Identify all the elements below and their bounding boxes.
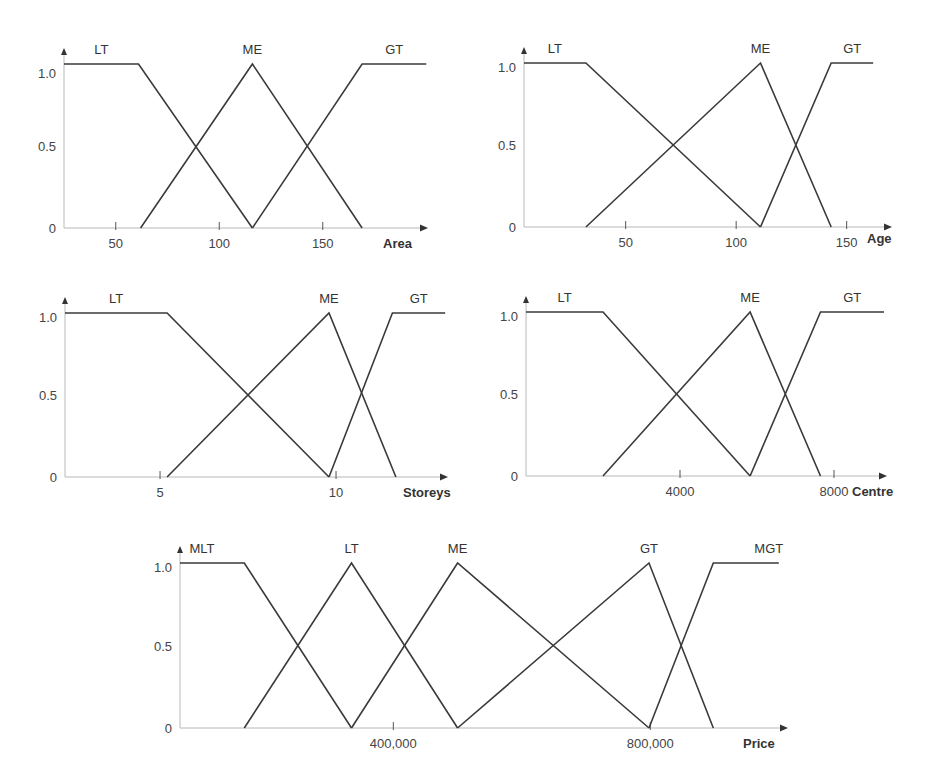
- chart-svg: 00.51.0400,000800,000PriceMLTLTMEGTMGT: [0, 0, 926, 781]
- y-tick-label: 1.0: [154, 560, 172, 575]
- membership-curve-lt: [244, 563, 457, 728]
- y-tick-label: 0: [165, 721, 172, 736]
- set-label-gt: GT: [640, 541, 658, 556]
- set-label-lt: LT: [344, 541, 358, 556]
- membership-curve-gt: [458, 563, 714, 728]
- x-tick-label: 400,000: [370, 736, 417, 751]
- y-tick-label: 0.5: [154, 639, 172, 654]
- membership-curve-me: [352, 563, 650, 728]
- y-axis-arrow-icon: [177, 546, 183, 553]
- membership-curve-mgt: [649, 563, 779, 728]
- membership-curve-mlt: [180, 563, 352, 728]
- set-label-mlt: MLT: [189, 541, 214, 556]
- set-label-me: ME: [448, 541, 468, 556]
- set-label-mgt: MGT: [754, 541, 783, 556]
- x-axis-arrow-icon: [780, 725, 788, 732]
- x-axis-title: Price: [743, 736, 775, 751]
- x-tick-label: 800,000: [627, 736, 674, 751]
